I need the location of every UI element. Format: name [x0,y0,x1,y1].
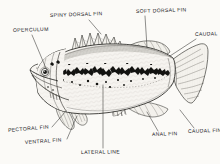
fish-anatomy-diagram: SPINY DORSAL FIN SOFT DORSAL FIN OPERCUL… [0,0,220,164]
caudal-fin-art [172,44,208,103]
eye [40,67,50,77]
leader-caudal-fin [180,110,194,128]
label-anal-fin: ANAL FIN [152,131,178,137]
label-lateral-line: LATERAL LINE [81,149,120,155]
label-caudal-fin: CAUDAL FIN [188,128,220,134]
label-caudal: CAUDAL [195,31,218,37]
leader-spiny-dorsal-fin [89,20,101,34]
